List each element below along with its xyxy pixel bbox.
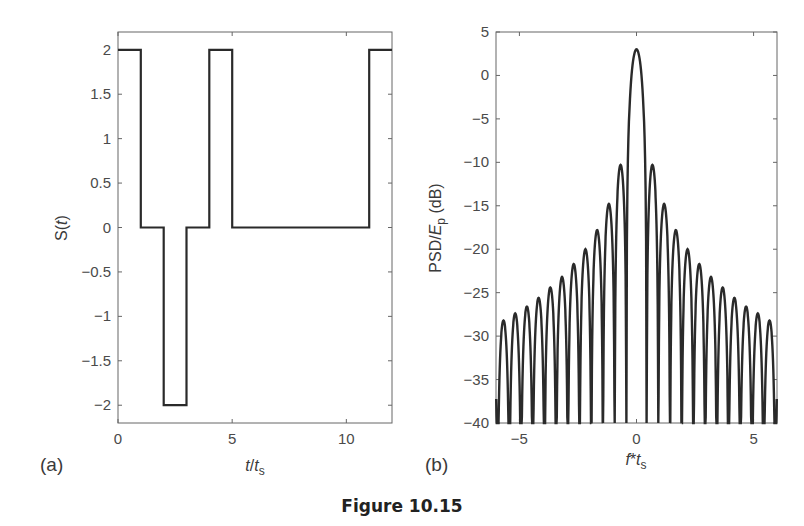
chart-b-axes-box <box>496 32 777 423</box>
y-tick-label: −25 <box>464 284 489 301</box>
chart-a-ylabel: S(t) <box>53 215 70 241</box>
y-tick-label: −10 <box>464 153 489 170</box>
chart-a-ticks: 051021.510.50−0.5−1−1.5−2 <box>81 32 392 447</box>
chart-b: −50550−5−10−15−20−25−30−35−40 PSD/Ep (dB… <box>425 23 777 475</box>
y-tick-label: −2 <box>94 396 111 413</box>
y-tick-label: −1.5 <box>81 352 111 369</box>
x-tick-label: −5 <box>511 430 528 447</box>
chart-a-signal-line <box>118 50 392 405</box>
y-tick-label: −35 <box>464 371 489 388</box>
chart-b-ylabel: PSD/Ep (dB) <box>427 183 448 272</box>
chart-b-psd-line <box>496 49 777 423</box>
chart-a: 051021.510.50−0.5−1−1.5−2 S(t) t/ts (a) <box>40 32 392 478</box>
y-tick-label: 1.5 <box>90 85 111 102</box>
x-tick-label: 0 <box>114 430 122 447</box>
x-tick-label: 0 <box>632 430 640 447</box>
chart-b-panel-label: (b) <box>425 454 448 475</box>
y-tick-label: −5 <box>472 110 489 127</box>
y-tick-label: −30 <box>464 327 489 344</box>
y-tick-label: 0 <box>103 219 111 236</box>
y-tick-label: −1 <box>94 307 111 324</box>
y-tick-label: −0.5 <box>81 263 111 280</box>
chart-a-xlabel: t/ts <box>245 457 264 478</box>
chart-a-panel-label: (a) <box>40 454 63 475</box>
y-tick-label: 0 <box>481 66 489 83</box>
y-tick-label: 0.5 <box>90 174 111 191</box>
y-tick-label: −15 <box>464 197 489 214</box>
y-tick-label: −20 <box>464 240 489 257</box>
figure: 051021.510.50−0.5−1−1.5−2 S(t) t/ts (a) … <box>0 0 804 526</box>
x-tick-label: 5 <box>749 430 757 447</box>
y-tick-label: 2 <box>103 41 111 58</box>
x-tick-label: 10 <box>338 430 355 447</box>
y-tick-label: 1 <box>103 130 111 147</box>
y-tick-label: 5 <box>481 23 489 40</box>
x-tick-label: 5 <box>228 430 236 447</box>
figure-caption: Figure 10.15 <box>0 496 804 516</box>
y-tick-label: −40 <box>464 414 489 431</box>
chart-b-xlabel: f*ts <box>625 451 646 472</box>
